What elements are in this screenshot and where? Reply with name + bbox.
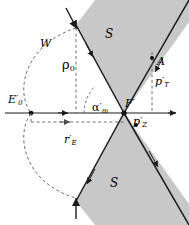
label-pT: p′T [155, 76, 169, 89]
label-pZ: p′Z [133, 116, 147, 129]
label-S-upper: S [105, 28, 113, 40]
label-E0: E′0 [8, 94, 23, 107]
figure-double-cone-diagram: S S F′ E′0 W ρ0 α′m r′E A p′T p′Z [0, 0, 189, 225]
label-alpha-m: α′m [92, 102, 108, 115]
label-rE: r′E [64, 134, 77, 147]
label-S-lower: S [110, 177, 118, 189]
top-incoming-arrow [66, 8, 77, 29]
label-F-apex: F′ [125, 98, 135, 109]
point-A-dot [150, 56, 154, 60]
label-W: W [40, 38, 51, 49]
label-rho0: ρ0 [62, 58, 75, 73]
label-A: A [157, 56, 165, 67]
